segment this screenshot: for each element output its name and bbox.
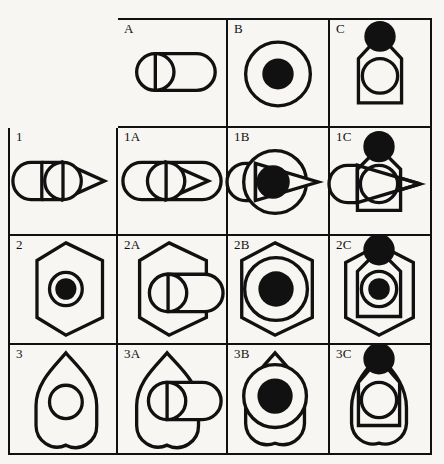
cell-label-C: C — [336, 22, 345, 36]
cell-A[interactable]: A — [118, 18, 228, 128]
cell-B[interactable]: B — [228, 18, 330, 128]
cell-2[interactable]: 2 — [8, 236, 118, 345]
shape-3 — [10, 345, 116, 453]
cell-3[interactable]: 3 — [8, 345, 118, 455]
cell-label-2C: 2C — [336, 238, 352, 252]
cell-label-3: 3 — [16, 347, 23, 361]
shape-B — [228, 20, 328, 126]
cell-label-2A: 2A — [124, 238, 140, 252]
cell-label-1B: 1B — [234, 130, 250, 144]
cell-2A[interactable]: 2A — [118, 236, 228, 345]
cell-label-1: 1 — [16, 130, 23, 144]
matrix-corner-cell — [8, 18, 118, 128]
cell-label-1C: 1C — [336, 130, 352, 144]
shape-C — [330, 20, 430, 126]
cell-label-3A: 3A — [124, 347, 140, 361]
cell-3C[interactable]: 3C — [330, 345, 432, 455]
cell-1B[interactable]: 1B — [228, 128, 330, 236]
cell-C[interactable]: C — [330, 18, 432, 128]
cell-2C[interactable]: 2C — [330, 236, 432, 345]
shape-1 — [10, 128, 116, 234]
cell-label-B: B — [234, 22, 243, 36]
cell-1A[interactable]: 1A — [118, 128, 228, 236]
cell-label-3C: 3C — [336, 347, 352, 361]
cell-3A[interactable]: 3A — [118, 345, 228, 455]
cell-label-A: A — [124, 22, 134, 36]
cell-3B[interactable]: 3B — [228, 345, 330, 455]
combination-matrix: A B C — [8, 18, 432, 455]
cell-label-3B: 3B — [234, 347, 250, 361]
cell-1C[interactable]: 1C — [330, 128, 432, 236]
shape-A — [118, 20, 226, 126]
cell-label-2: 2 — [16, 238, 23, 252]
cell-label-2B: 2B — [234, 238, 250, 252]
cell-2B[interactable]: 2B — [228, 236, 330, 345]
cell-1[interactable]: 1 — [8, 128, 118, 236]
figure-canvas: A B C — [0, 0, 444, 464]
cell-label-1A: 1A — [124, 130, 140, 144]
shape-2 — [10, 236, 116, 343]
